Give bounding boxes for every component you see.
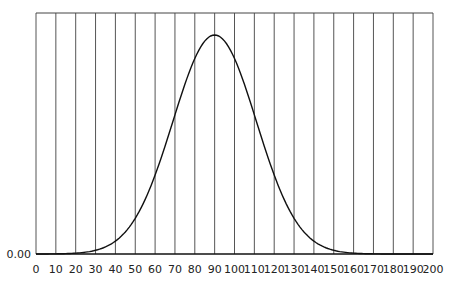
x-tick-label: 110 (244, 263, 265, 276)
x-tick-label: 40 (108, 263, 122, 276)
x-tick-label: 60 (148, 263, 162, 276)
x-tick-label: 130 (284, 263, 305, 276)
x-tick-label: 140 (303, 263, 324, 276)
x-tick-label: 90 (208, 263, 222, 276)
x-tick-label: 120 (264, 263, 285, 276)
x-tick-labels: 0102030405060708090100110120130140150160… (33, 263, 444, 276)
x-tick-label: 190 (403, 263, 424, 276)
x-tick-label: 200 (423, 263, 444, 276)
y-tick-label: 0.00 (7, 248, 32, 261)
x-tick-label: 80 (188, 263, 202, 276)
vertical-gridlines (36, 13, 433, 254)
x-tick-label: 0 (33, 263, 40, 276)
x-tick-label: 70 (168, 263, 182, 276)
x-tick-label: 180 (383, 263, 404, 276)
x-tick-label: 150 (323, 263, 344, 276)
chart: 0.00 01020304050607080901001101201301401… (0, 0, 450, 285)
x-tick-label: 20 (69, 263, 83, 276)
x-tick-label: 100 (224, 263, 245, 276)
x-tick-label: 10 (49, 263, 63, 276)
x-tick-label: 30 (89, 263, 103, 276)
x-tick-label: 160 (343, 263, 364, 276)
x-tick-label: 50 (128, 263, 142, 276)
x-tick-label: 170 (363, 263, 384, 276)
